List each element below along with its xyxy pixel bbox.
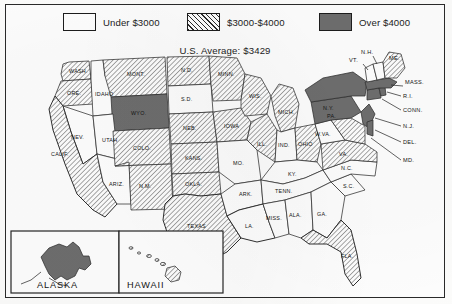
legend-item-over: Over $4000 bbox=[319, 13, 410, 31]
label-mich: MICH. bbox=[278, 109, 295, 115]
label-tenn: TENN. bbox=[275, 188, 292, 194]
label-idaho: IDAHO bbox=[95, 91, 113, 97]
label-ill: ILL. bbox=[257, 141, 267, 147]
label-nc: N.C. bbox=[341, 165, 353, 171]
label-wis: WIS. bbox=[249, 93, 262, 99]
label-mo: MO. bbox=[233, 160, 244, 166]
legend-item-under: Under $3000 bbox=[63, 13, 160, 31]
label-vt: VT. bbox=[349, 57, 358, 63]
label-del: DEL. bbox=[403, 139, 417, 145]
state-del bbox=[367, 120, 373, 136]
label-iowa: IOWA bbox=[224, 123, 239, 129]
label-sc: S.C. bbox=[343, 183, 354, 189]
legend-swatch-under bbox=[63, 13, 96, 31]
state-ny bbox=[305, 72, 367, 102]
label-nm: N.M. bbox=[139, 183, 151, 189]
legend-swatch-mid bbox=[187, 13, 220, 31]
label-conn: CONN. bbox=[403, 107, 423, 113]
label-colo: COLO. bbox=[133, 145, 151, 151]
label-ri: R.I. bbox=[403, 93, 413, 99]
label-nd: N.D. bbox=[181, 67, 193, 73]
label-texas: TEXAS bbox=[187, 223, 206, 229]
label-sd: S.D. bbox=[181, 96, 192, 102]
label-calif: CALIF. bbox=[51, 151, 69, 157]
label-fla: FLA. bbox=[341, 253, 353, 259]
label-ga: GA. bbox=[317, 211, 327, 217]
label-md: MD. bbox=[403, 157, 414, 163]
label-mass: MASS. bbox=[405, 79, 424, 85]
label-neb: NEB. bbox=[183, 125, 197, 131]
label-minn: MINN. bbox=[218, 71, 235, 77]
label-ky: KY. bbox=[288, 171, 297, 177]
label-nj: N.J. bbox=[403, 123, 414, 129]
label-ore: ORE. bbox=[67, 90, 81, 96]
state-mich bbox=[271, 84, 299, 132]
label-la: LA. bbox=[245, 223, 254, 229]
label-ohio: OHIO bbox=[298, 141, 313, 147]
hawaii-label: HAWAII bbox=[127, 280, 164, 290]
state-minn bbox=[209, 56, 245, 101]
label-ny: N.Y. bbox=[323, 105, 334, 111]
label-ariz: ARIZ. bbox=[109, 181, 124, 187]
label-va: VA. bbox=[339, 151, 348, 157]
label-pa: PA. bbox=[327, 113, 336, 119]
label-okla: OKLA. bbox=[185, 181, 202, 187]
alaska-label: ALASKA bbox=[37, 280, 78, 290]
inset-panels: ALASKA HAWAII bbox=[11, 231, 223, 293]
label-miss: MISS. bbox=[266, 215, 282, 221]
us-average-text: U.S. Average: $3429 bbox=[5, 45, 445, 56]
label-mont: MONT. bbox=[127, 71, 145, 77]
label-kans: KANS. bbox=[185, 155, 202, 161]
label-wva: W.VA. bbox=[315, 131, 331, 137]
label-nev: NEV. bbox=[71, 134, 84, 140]
legend-label-over: Over $4000 bbox=[359, 17, 410, 28]
label-wyo: WYO. bbox=[131, 110, 146, 116]
legend-label-mid: $3000-$4000 bbox=[227, 17, 285, 28]
legend-item-mid: $3000-$4000 bbox=[187, 13, 285, 31]
label-ark: ARK. bbox=[239, 191, 253, 197]
legend: Under $3000 $3000-$4000 Over $4000 U.S. … bbox=[5, 4, 445, 40]
legend-label-under: Under $3000 bbox=[103, 17, 160, 28]
label-ala: ALA. bbox=[289, 212, 302, 218]
label-ind: IND. bbox=[278, 142, 290, 148]
figure-page: WASH. ORE. IDAHO MONT. NEV. UTAH CALIF. … bbox=[0, 0, 452, 304]
legend-swatch-over bbox=[319, 13, 352, 31]
label-wash: WASH. bbox=[69, 68, 88, 74]
label-utah: UTAH bbox=[102, 137, 117, 143]
